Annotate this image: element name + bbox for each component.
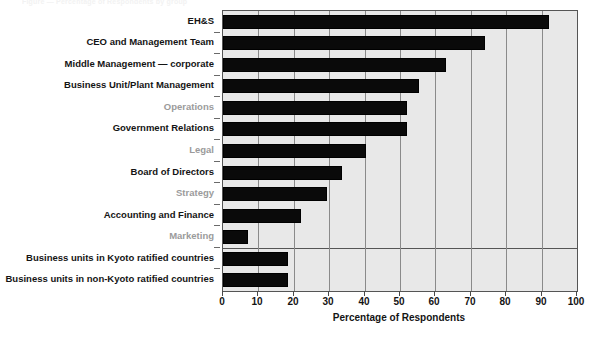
row-tick	[214, 225, 220, 226]
chart-figure: Figure — Percentage of Respondents by gr…	[0, 0, 589, 338]
category-label: Marketing	[169, 230, 214, 242]
bar	[223, 15, 549, 29]
category-label: Business units in non-Kyoto ratified cou…	[6, 273, 215, 285]
row-tick	[214, 204, 220, 205]
category-label: Operations	[164, 101, 214, 113]
x-tick-label: 10	[251, 296, 262, 307]
x-axis-tick-labels: 0102030405060708090100	[0, 296, 589, 310]
x-tick-label: 40	[358, 296, 369, 307]
row-tick	[214, 75, 220, 76]
row-tick	[214, 139, 220, 140]
x-tick-label: 0	[219, 296, 225, 307]
bar	[223, 144, 366, 158]
bar	[223, 101, 407, 115]
bar	[223, 273, 288, 287]
x-axis-title: Percentage of Respondents	[222, 312, 576, 323]
category-label: EH&S	[188, 15, 214, 27]
gridline-50	[400, 11, 401, 291]
category-label: Legal	[189, 144, 214, 156]
x-tick-label: 50	[393, 296, 404, 307]
bar	[223, 79, 419, 93]
row-tick	[214, 268, 220, 269]
row-tick	[214, 96, 220, 97]
bar	[223, 230, 248, 244]
category-label: Middle Management — corporate	[65, 58, 214, 70]
category-label: Business Unit/Plant Management	[64, 79, 214, 91]
gridline-70	[471, 11, 472, 291]
gridline-90	[542, 11, 543, 291]
x-tick-label: 80	[499, 296, 510, 307]
bar	[223, 187, 327, 201]
row-tick	[214, 247, 220, 248]
row-tick	[214, 182, 220, 183]
row-tick	[214, 161, 220, 162]
category-label: Strategy	[176, 187, 214, 199]
bar	[223, 122, 407, 136]
gridline-60	[435, 11, 436, 291]
category-label-column: EH&SCEO and Management TeamMiddle Manage…	[0, 10, 220, 290]
category-label: Business units in Kyoto ratified countri…	[26, 252, 214, 264]
category-label: Accounting and Finance	[104, 209, 214, 221]
plot-area	[222, 10, 578, 292]
x-tick-label: 70	[464, 296, 475, 307]
x-tick-label: 60	[428, 296, 439, 307]
x-tick-label: 20	[287, 296, 298, 307]
bar	[223, 209, 301, 223]
bar	[223, 166, 342, 180]
row-tick	[214, 32, 220, 33]
row-tick	[214, 53, 220, 54]
x-tick-label: 100	[568, 296, 585, 307]
bar	[223, 58, 446, 72]
bar	[223, 252, 288, 266]
x-tick-label: 30	[322, 296, 333, 307]
bar	[223, 36, 485, 50]
category-label: Government Relations	[113, 122, 214, 134]
figure-top-caption: Figure — Percentage of Respondents by gr…	[22, 0, 442, 6]
gridline-80	[506, 11, 507, 291]
category-label: CEO and Management Team	[86, 36, 214, 48]
x-tick-label: 90	[535, 296, 546, 307]
category-label: Board of Directors	[131, 166, 214, 178]
row-tick	[214, 118, 220, 119]
